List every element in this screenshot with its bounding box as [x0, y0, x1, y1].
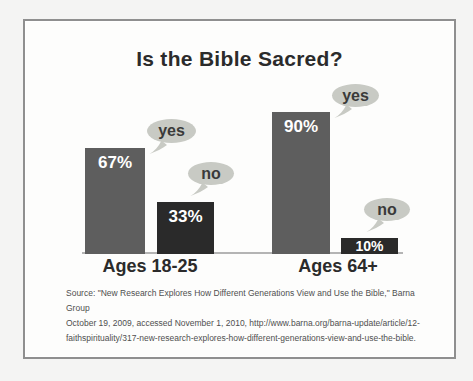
bar-value-label: 90% — [272, 118, 330, 135]
category-label-ages-64plus: Ages 64+ — [298, 256, 378, 277]
source-line: faithspirituality/317-new-research-explo… — [66, 331, 428, 346]
category-label-ages-18-25: Ages 18-25 — [102, 256, 197, 277]
chart-title: Is the Bible Sacred? — [23, 47, 456, 71]
source-line: Source: "New Research Explores How Diffe… — [66, 286, 428, 316]
speech-bubble-label: yes — [332, 84, 379, 107]
bar-value-label: 10% — [341, 239, 398, 253]
bar-ages-18-25-no: 33% — [157, 202, 214, 254]
source-line: October 19, 2009, accessed November 1, 2… — [66, 316, 428, 331]
speech-bubble-yes-ages-18-25: yes — [147, 119, 196, 143]
source-citation: Source: "New Research Explores How Diffe… — [66, 286, 428, 346]
bar-value-label: 67% — [85, 154, 145, 171]
speech-bubble-label: yes — [147, 119, 196, 143]
bar-ages-64plus-no: 10% — [341, 238, 398, 254]
speech-bubble-label: no — [364, 198, 410, 221]
speech-bubble-yes-ages-64plus: yes — [332, 84, 379, 107]
speech-bubble-label: no — [188, 162, 234, 185]
bar-ages-18-25-yes: 67% — [85, 148, 145, 254]
speech-bubble-no-ages-64plus: no — [364, 198, 410, 221]
bar-value-label: 33% — [157, 208, 214, 225]
bar-ages-64plus-yes: 90% — [272, 112, 330, 254]
page: Is the Bible Sacred? 67% 33% 90% 10% Age… — [0, 0, 473, 381]
speech-bubble-no-ages-18-25: no — [188, 162, 234, 185]
